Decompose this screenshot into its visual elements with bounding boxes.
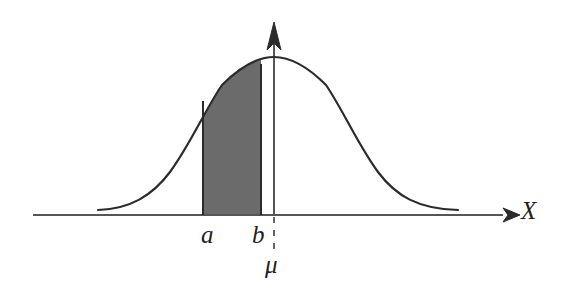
x-axis-arrow-icon: [503, 208, 520, 222]
normal-distribution-curve: [98, 57, 458, 210]
mean-label-mu: μ: [265, 252, 278, 277]
upper-bound-label-b: b: [252, 222, 265, 247]
distribution-plot-canvas: [0, 0, 568, 292]
lower-bound-label-a: a: [201, 222, 214, 247]
normal-distribution-figure: X a b μ: [0, 0, 568, 292]
x-axis-label: X: [521, 198, 536, 223]
